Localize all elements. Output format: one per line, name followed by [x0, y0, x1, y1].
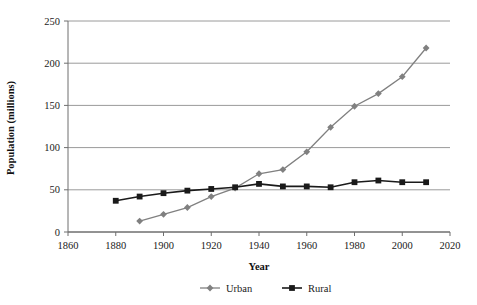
chart-background — [0, 0, 477, 305]
point-rural-1920 — [208, 186, 214, 192]
y-tick-label-150: 150 — [44, 100, 60, 111]
point-rural-1940 — [256, 181, 262, 187]
legend-label-urban: Urban — [226, 283, 253, 294]
point-rural-1930 — [232, 184, 238, 190]
point-rural-1910 — [184, 188, 190, 194]
point-rural-1900 — [161, 190, 167, 196]
y-tick-label-250: 250 — [44, 16, 60, 27]
y-tick-label-50: 50 — [50, 184, 61, 195]
legend-label-rural: Rural — [308, 283, 331, 294]
point-rural-1990 — [375, 178, 381, 184]
legend-marker-rural — [289, 285, 295, 291]
x-axis-title: Year — [249, 261, 270, 272]
x-tick-label-2020: 2020 — [440, 240, 461, 251]
x-tick-labels: 186018801900192019401960198020002020 — [58, 240, 461, 251]
x-tick-label-1880: 1880 — [105, 240, 126, 251]
point-rural-2000 — [399, 179, 405, 185]
point-rural-2010 — [423, 179, 429, 185]
x-tick-label-1960: 1960 — [296, 240, 317, 251]
x-tick-label-1980: 1980 — [344, 240, 365, 251]
point-rural-1960 — [304, 184, 310, 190]
point-rural-1980 — [352, 179, 358, 185]
chart-page: 050100150200250 186018801900192019401960… — [0, 0, 477, 305]
x-tick-label-2000: 2000 — [392, 240, 413, 251]
point-rural-1890 — [137, 194, 143, 200]
y-tick-label-100: 100 — [44, 142, 60, 153]
point-rural-1970 — [328, 184, 334, 190]
chart-svg: 050100150200250 186018801900192019401960… — [0, 0, 477, 305]
y-axis-title: Population (millions) — [5, 80, 17, 175]
y-tick-label-0: 0 — [55, 227, 60, 238]
x-tick-label-1900: 1900 — [153, 240, 174, 251]
x-tick-label-1860: 1860 — [58, 240, 79, 251]
point-rural-1880 — [113, 198, 119, 204]
x-tick-label-1920: 1920 — [201, 240, 222, 251]
population-line-chart: 050100150200250 186018801900192019401960… — [0, 0, 477, 305]
x-tick-label-1940: 1940 — [249, 240, 270, 251]
point-rural-1950 — [280, 184, 286, 190]
y-tick-label-200: 200 — [44, 58, 60, 69]
